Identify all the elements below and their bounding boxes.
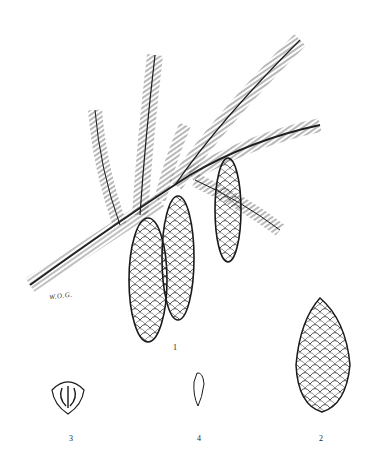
detached-cone: [296, 298, 350, 412]
seed: [194, 373, 204, 406]
figure-label-3: 3: [69, 434, 73, 443]
figure-label-1: 1: [173, 343, 177, 352]
figure-label-2: 2: [319, 434, 323, 443]
figure-label-4: 4: [197, 434, 201, 443]
cone-scale: [52, 382, 84, 414]
spruce-illustration: [0, 0, 375, 467]
